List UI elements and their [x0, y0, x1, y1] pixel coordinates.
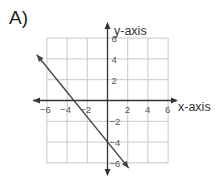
y-axis-down-arrow-icon: [105, 169, 111, 176]
coordinate-plane: −6−4−2246642−2−4−6 x-axis y-axis: [0, 0, 215, 180]
x-tick-label: −2: [80, 104, 91, 115]
x-tick-label: 6: [165, 104, 170, 115]
axes: [33, 22, 178, 176]
y-axis-up-arrow-icon: [105, 22, 111, 29]
y-tick-label: −2: [110, 116, 121, 127]
y-tick-label: 4: [112, 54, 117, 65]
x-axis-right-arrow-icon: [171, 98, 178, 104]
y-axis-label: y-axis: [114, 24, 147, 38]
x-tick-label: 4: [145, 104, 150, 115]
y-tick-label: −6: [110, 158, 121, 169]
x-tick-label: 2: [125, 104, 130, 115]
y-tick-label: 2: [112, 75, 117, 86]
x-tick-label: −6: [40, 104, 51, 115]
x-tick-label: −4: [60, 104, 71, 115]
x-axis-label: x-axis: [178, 100, 211, 114]
